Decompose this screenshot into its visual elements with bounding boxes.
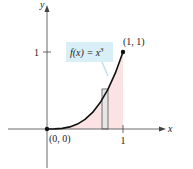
point-origin: [45, 127, 49, 131]
y-axis-label: y: [39, 0, 45, 10]
point-end: [121, 50, 125, 54]
label-pointer-line: [102, 62, 108, 76]
y-axis-arrow-icon: [45, 5, 50, 12]
shaded-region: [47, 52, 123, 129]
function-label-exponent: 3: [99, 46, 104, 54]
origin-point-label: (0, 0): [49, 133, 71, 145]
x-axis-label: x: [167, 123, 173, 134]
function-label: f(x) = x3: [70, 46, 104, 59]
function-label-text: f(x) = x: [70, 47, 101, 59]
end-point-label: (1, 1): [123, 36, 145, 48]
graph-canvas: y x 1 1 (0, 0) (1, 1) f(x) = x3: [0, 0, 193, 169]
y-tick-label-1: 1: [34, 47, 39, 58]
x-axis-arrow-icon: [159, 127, 166, 132]
x-tick-label-1: 1: [121, 135, 126, 146]
